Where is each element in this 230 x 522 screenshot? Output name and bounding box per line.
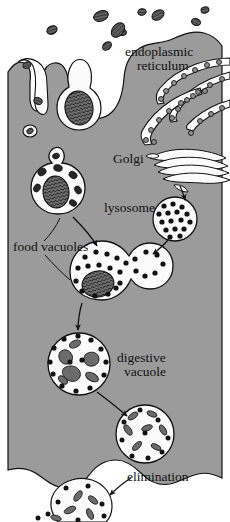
label-digestive-vacuole-line2: vacuole: [124, 364, 166, 379]
ribosome: [205, 63, 210, 68]
ribosome: [176, 107, 181, 112]
ribosome: [159, 97, 164, 102]
ribosome: [196, 90, 201, 95]
ribosome: [198, 119, 203, 124]
ribosome: [164, 89, 169, 94]
ribosome: [152, 140, 157, 145]
label-elimination: elimination: [127, 469, 189, 484]
ribosome: [203, 89, 208, 94]
ribosome: [157, 118, 162, 123]
ribosome: [208, 83, 213, 88]
cytoplasmic-vesicle-small: [23, 125, 37, 137]
ribosome: [189, 131, 194, 136]
label-endoplasmic-reticulum-line2: reticulum: [137, 58, 189, 73]
ribosome: [167, 109, 172, 114]
ribosome: [149, 128, 154, 133]
ribosome: [191, 94, 196, 99]
label-lysosome: lysosome: [104, 200, 155, 215]
diagram-canvas: endoplasmic reticulum Golgi lysosome foo…: [0, 0, 230, 522]
lysosome-vesicle: [153, 197, 197, 241]
label-food-vacuoles: food vacuoles: [13, 239, 88, 254]
ribosome: [182, 74, 187, 79]
digestive-vacuole: [47, 333, 110, 395]
ribosome: [185, 98, 190, 103]
label-endoplasmic-reticulum-line1: endoplasmic: [125, 44, 193, 59]
ribosome: [170, 116, 175, 121]
label-digestive-vacuole-line1: digestive: [117, 350, 166, 365]
ribosome: [179, 101, 184, 106]
ribosome: [217, 60, 222, 65]
golgi-vesicle: [146, 154, 159, 159]
ribosome: [220, 106, 225, 111]
ribosome: [220, 77, 225, 82]
label-golgi: Golgi: [113, 151, 144, 166]
ribosome: [172, 81, 177, 86]
ribosome: [144, 138, 149, 143]
phagocytosis-diagram: endoplasmic reticulum Golgi lysosome foo…: [0, 0, 230, 522]
ribosome: [209, 112, 214, 117]
ribosome: [193, 68, 198, 73]
